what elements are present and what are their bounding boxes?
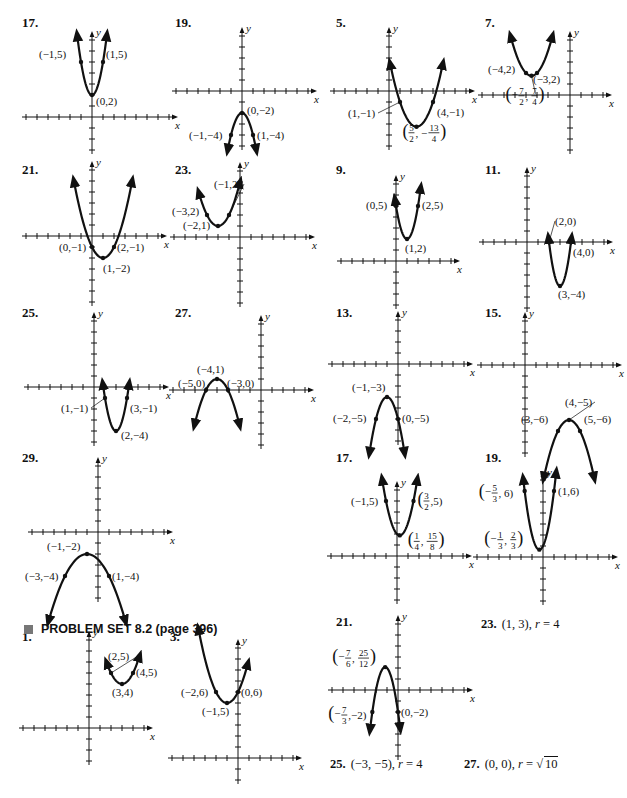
data-point [524,71,528,75]
svg-text:6: 6 [346,659,351,669]
svg-text:(−1,5): (−1,5) [202,705,230,718]
axes [337,178,457,309]
point-label: (4,5) [136,666,157,679]
svg-text:(−1,−4): (−1,−4) [189,129,223,142]
data-point [411,499,415,503]
svg-text:(−1,5): (−1,5) [351,495,379,508]
parabola-curve [369,397,404,453]
graph-p1: xy(2,5)(4,5)(3,4) [19,626,157,765]
data-point [383,665,387,669]
svg-text:−: − [334,707,340,719]
point-label: (0,−1) [59,241,87,254]
data-point [251,133,255,137]
point-label: (3,−1) [130,402,158,415]
point-label: (1,5) [106,48,127,61]
axes [168,642,299,784]
graph-p25: xy(1,−1)(3,−1)(2,−4) [24,307,171,446]
data-point [569,240,573,244]
point-label: (−1,5) [351,495,379,508]
svg-text:13: 13 [429,123,439,133]
x-axis-label: x [614,559,620,571]
axes [479,170,610,312]
axes [19,634,150,765]
svg-text:(−2,6): (−2,6) [181,686,209,699]
x-axis-label: x [313,93,319,105]
svg-text:7: 7 [346,648,351,658]
svg-text:(3,−1): (3,−1) [130,402,158,415]
svg-text:(−4,1): (−4,1) [197,363,225,376]
point-label: (5,−6) [584,413,612,426]
data-point [214,690,218,694]
answer-a27: 27.(0, 0), r = √10 [464,757,558,772]
svg-text:, 6): , 6) [499,487,514,500]
svg-text:(2,5): (2,5) [422,199,443,212]
y-axis-label: y [245,22,251,34]
svg-text:,−2): ,−2) [348,709,366,722]
point-label: (2,5) [422,199,443,212]
point-label: (−1,5) [202,705,230,718]
data-point [90,93,94,97]
data-point [405,237,409,241]
svg-text:(−2,1): (−2,1) [183,219,211,232]
svg-text:(5,−6): (5,−6) [584,413,612,426]
y-axis-label: y [95,26,101,38]
svg-text:3: 3 [492,494,497,504]
problem-number: 17. [336,450,352,466]
point-label: (−2,1) [183,219,211,232]
svg-text:−: − [485,485,491,497]
svg-text:7: 7 [519,86,524,96]
point-label: (3,4) [112,686,133,699]
svg-text:(−3,−4): (−3,−4) [25,570,59,583]
problem-number: 7. [485,15,495,31]
svg-text:−: − [338,650,344,662]
x-axis-label: x [469,366,475,378]
svg-text:(−1,−3): (−1,−3) [352,381,386,394]
svg-text:7: 7 [532,86,537,96]
y-axis-label: y [95,156,101,168]
svg-text:(0,−5): (0,−5) [402,412,430,425]
graph-p17a: xy(−1,5)(1,5)(0,2) [22,26,180,154]
point-label: (0,6) [241,686,262,699]
point-label: (14, 158) [408,529,445,552]
point-label: (−73,−2) [328,703,366,726]
svg-text:(−3,2): (−3,2) [172,205,200,218]
svg-text:(−3,2): (−3,2) [533,73,561,86]
data-point [131,671,135,675]
point-label: (1,−1) [61,398,105,415]
svg-text:(1,−1): (1,−1) [348,107,376,120]
parabola-curve [382,479,417,535]
svg-text:(: ( [408,529,414,550]
svg-text:(−3,0): (−3,0) [227,377,255,390]
x-axis-label: x [310,392,316,404]
x-axis-label: x [468,558,474,570]
data-point [394,204,398,208]
problem-number: 29. [22,450,38,466]
data-point [398,533,402,537]
graph-p29: xy(−1,−2)(−3,−4)(1,−4) [25,452,175,621]
svg-text:): ) [440,121,446,142]
point-label: (1,6) [558,485,579,498]
svg-text:(0,2): (0,2) [96,95,117,108]
point-label: (1,−1) [348,102,400,120]
svg-text:(: ( [418,489,424,510]
point-label: (−13, 23) [484,528,523,551]
svg-text:(−2,−5): (−2,−5) [333,412,367,425]
svg-text:(0,5): (0,5) [366,199,387,212]
svg-text:8: 8 [430,542,435,552]
problem-number: 23. [175,162,191,178]
y-axis-label: y [530,162,536,174]
svg-text:2: 2 [409,134,414,144]
axes [330,30,472,150]
graph-p7: xy(−4,2)(−3,2)(−72, 74) [478,26,614,154]
svg-text:(2,5): (2,5) [108,650,129,663]
graph-p11: xy(2,0)(4,0)(3,−4) [479,162,615,312]
svg-text:, −: , − [415,127,427,139]
section-title: PROBLEM SET 8.2 (page 396) [41,622,217,636]
point-label: (−4,1) [197,363,225,376]
data-point [112,245,116,249]
axes [328,618,470,760]
svg-text:4: 4 [414,542,419,552]
x-axis-label: x [456,263,462,275]
svg-text:4: 4 [432,134,437,144]
graph-p21b: xy(−76, 2512)(−73,−2)(0,−2) [328,610,475,760]
